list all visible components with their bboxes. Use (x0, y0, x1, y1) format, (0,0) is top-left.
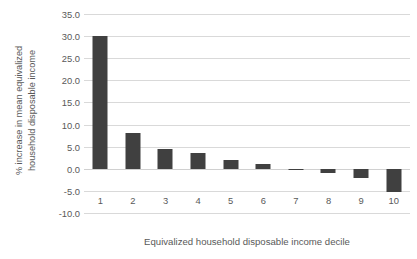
bar-slot (182, 14, 215, 213)
x-axis-tick-label: 7 (293, 195, 298, 206)
bar-slot (377, 14, 410, 213)
bar[interactable] (354, 169, 369, 178)
y-axis-tick-label: 25.0 (44, 53, 80, 64)
y-axis-tick-label: -5.0 (44, 185, 80, 196)
bar[interactable] (256, 164, 271, 168)
bar-slot (117, 14, 150, 213)
bar[interactable] (93, 36, 108, 169)
bar[interactable] (158, 149, 173, 168)
y-axis-tick-label: 20.0 (44, 75, 80, 86)
bar[interactable] (191, 153, 206, 168)
y-axis-tick-label: 35.0 (44, 9, 80, 20)
bar-chart: % increase in mean equivalized household… (0, 0, 417, 259)
gridline (84, 213, 410, 214)
bars-layer (84, 14, 410, 213)
bar-slot (149, 14, 182, 213)
x-axis-title: Equivalized household disposable income … (84, 236, 410, 247)
x-axis-tick-label: 8 (326, 195, 331, 206)
x-axis-tick-label: 5 (228, 195, 233, 206)
y-axis-tick-label: 0.0 (44, 163, 80, 174)
x-axis-tick-label: 2 (130, 195, 135, 206)
x-axis-tick-label: 9 (358, 195, 363, 206)
bar[interactable] (223, 160, 238, 169)
x-axis-tick-label: 10 (388, 195, 398, 206)
y-axis-title-line-2: household disposable income (26, 45, 39, 174)
bar-slot (280, 14, 313, 213)
bar-slot (247, 14, 280, 213)
bar[interactable] (125, 133, 140, 168)
y-axis-title-line-1: % increase in mean equivalized (14, 45, 27, 174)
bar[interactable] (321, 169, 336, 173)
plot-area (84, 14, 410, 213)
bar-slot (214, 14, 247, 213)
x-axis-tick-label: 4 (195, 195, 200, 206)
x-axis-tick-label: 3 (163, 195, 168, 206)
bar-slot (312, 14, 345, 213)
y-axis-tick-label: 10.0 (44, 119, 80, 130)
bar-slot (345, 14, 378, 213)
bar[interactable] (288, 169, 303, 170)
y-axis-tick-label: 5.0 (44, 141, 80, 152)
bar-slot (84, 14, 117, 213)
bar[interactable] (386, 169, 401, 192)
y-axis-tick-label: -10.0 (44, 208, 80, 219)
y-axis-tick-labels: 35.030.025.020.015.010.05.00.0-5.0-10.0 (44, 0, 80, 259)
x-axis-tick-label: 6 (261, 195, 266, 206)
x-axis-tick-label: 1 (98, 195, 103, 206)
y-axis-tick-label: 30.0 (44, 31, 80, 42)
y-axis-tick-label: 15.0 (44, 97, 80, 108)
x-axis-tick-labels: 12345678910 (84, 195, 410, 213)
